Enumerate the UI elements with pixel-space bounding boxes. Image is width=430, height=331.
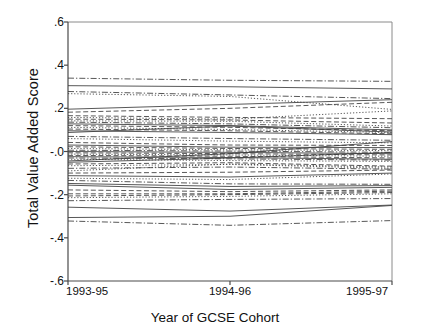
series-line (68, 205, 392, 217)
series-line (68, 173, 392, 177)
series-lines (68, 78, 392, 225)
series-line (68, 193, 392, 196)
x-axis-title: Year of GCSE Cohort (0, 310, 430, 325)
series-line (68, 136, 392, 140)
series-line (68, 205, 392, 211)
series-line (68, 190, 392, 192)
series-line (68, 139, 392, 143)
series-line (68, 86, 392, 89)
x-tick-label: 1993-95 (66, 285, 108, 297)
x-tick-label: 1995-97 (346, 285, 388, 297)
series-line (68, 221, 392, 226)
value-added-score-chart: Total Value Added Score .6.4.2-.0-.2-.4-… (0, 0, 430, 331)
x-tick-label: 1994-96 (205, 285, 255, 297)
series-line (68, 116, 392, 119)
series-line (68, 102, 392, 112)
series-line (68, 199, 392, 201)
plot-canvas (0, 0, 430, 331)
series-line (68, 78, 392, 81)
series-line (68, 167, 392, 169)
series-line (68, 180, 392, 184)
series-line (68, 91, 392, 98)
series-line (68, 170, 392, 173)
